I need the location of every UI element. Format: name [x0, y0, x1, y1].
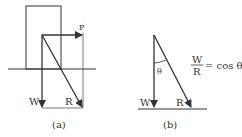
caption-b: (b) [163, 119, 177, 130]
eq-denominator: R [193, 66, 201, 77]
theta-arc [154, 60, 166, 63]
label-w: W [29, 96, 40, 107]
label-r: R [176, 97, 184, 108]
caption-a: (a) [52, 119, 66, 130]
panel-a: P W R (a) [8, 6, 96, 130]
label-r: R [65, 96, 73, 107]
label-p: P [79, 23, 85, 32]
label-w: W [140, 97, 151, 108]
force-diagram: P W R (a) θ W R W R = cos θ (b) [0, 0, 242, 137]
label-theta: θ [157, 67, 162, 76]
panel-b: θ W R W R = cos θ (b) [138, 35, 242, 130]
eq-numerator: W [192, 54, 203, 65]
eq-rhs: = cos θ [205, 60, 242, 71]
r-arrow [42, 35, 82, 107]
